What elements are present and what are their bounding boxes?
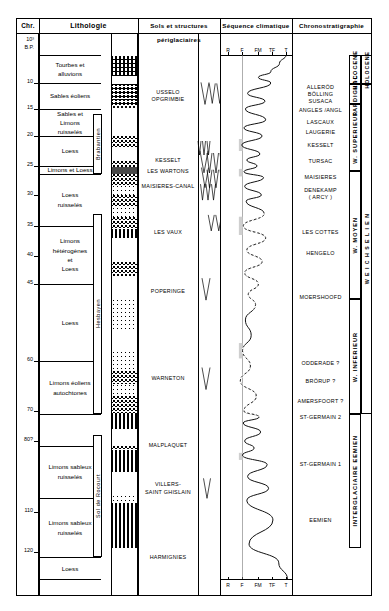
depth-tick-label: 20 <box>27 132 33 138</box>
chrono-event-line: MOERSHOOFD <box>292 294 349 301</box>
chrono-stage-inner-text: W. SUPERIEUR <box>352 111 358 164</box>
climate-curve-uncertain <box>240 55 287 579</box>
ice-wedge-symbol <box>214 153 219 173</box>
depth-tick-label: 30 <box>27 191 33 197</box>
lithology-unit-line: Sables et <box>57 109 83 118</box>
chrono-stage-inner-text: W. MOYEN <box>352 217 358 254</box>
lithology-unit-line: Loess <box>62 146 79 155</box>
chrono-stage-inner: W. INFERIEUR <box>349 299 361 414</box>
chrono-event: LAUGERIE <box>292 129 349 136</box>
chrono-event-line: AMERSFOORT ? <box>292 398 349 405</box>
lithology-unit-line: Limons éoliens <box>49 378 90 387</box>
climate-cold-band <box>239 169 243 177</box>
depth-tick-label: 25 <box>27 162 33 168</box>
chrono-event: HENGELO <box>292 250 349 257</box>
chrono-event: EEMIEN <box>292 517 349 524</box>
lithology-unit-line: Loess <box>62 190 79 199</box>
lithology-unit-line: autochtones <box>53 388 87 397</box>
chrono-event-line: DENEKAMP <box>292 187 349 194</box>
ice-wedge-symbol <box>208 215 214 231</box>
depth-unit-2: B.P. <box>25 45 35 51</box>
climate-cold-band <box>239 453 243 460</box>
soil-complex-label-text: Sol de Rocourt <box>95 474 101 518</box>
depth-tick-label: 40 <box>27 252 33 258</box>
chrono-event: LASCAUX <box>292 119 349 126</box>
ice-wedge-symbol <box>206 184 210 200</box>
chrono-stage-inner: TARDIGLAC. <box>349 84 361 104</box>
lithology-unit: Limons sableuxruisselés <box>39 498 101 558</box>
lithology-unit: Sables etLimonsruisselés <box>39 109 101 136</box>
soil-complex-label-text: Brabantien <box>95 128 101 160</box>
lithology-unit-line: ruisselés <box>58 200 82 209</box>
lithology-pattern-frame <box>111 33 138 595</box>
depth-scale-column: 10³ B.P. 1015202530354045607080?110120 <box>17 19 39 595</box>
chrono-event: ODDERADE ? <box>292 360 349 367</box>
lithology-unit-line: hétérogènes <box>53 246 87 255</box>
ice-wedge-symbol <box>201 184 205 200</box>
depth-tick-label: 80? <box>24 437 33 443</box>
chrono-stage-outer-text: HOLOCENE <box>364 51 370 88</box>
lithology-unit-line: Sables éoliens <box>50 91 90 100</box>
chrono-event: ST-GERMAIN 2 <box>292 414 349 421</box>
chrono-event-line: HENGELO <box>292 250 349 257</box>
chrono-event-line: LASCAUX <box>292 119 349 126</box>
depth-tick-label: 120 <box>24 548 33 554</box>
lithology-unit: Tourbes etalluvions <box>39 55 101 83</box>
ice-wedge-symbol <box>209 83 215 103</box>
chrono-event: ST-GERMAIN 1 <box>292 461 349 468</box>
chrono-event-line: ALLERÖD <box>292 84 349 91</box>
chrono-event: LES COTTES <box>292 229 349 236</box>
chrono-event-line: ST-GERMAIN 1 <box>292 461 349 468</box>
lithology-unit-line: Limons <box>60 236 80 245</box>
figure-frame: Chr. Lithologie Sols et structures périg… <box>16 18 372 596</box>
lithology-unit-line: Limons <box>60 118 80 127</box>
lithology-unit-line: ruisselés <box>58 528 82 537</box>
depth-tick-label: 70 <box>27 407 33 413</box>
soil-complex-label: Hesbayen <box>93 214 102 414</box>
lithology-divider <box>39 579 101 580</box>
chrono-event-line: MAISIERES <box>292 174 349 181</box>
chrono-event-line: EEMIEN <box>292 517 349 524</box>
chronostratigraphy-column: ALLERÖDBÖLLINGSUSACAANGLES /ANGLLASCAUXL… <box>292 19 371 595</box>
lithology-unit: Limons et Loess <box>39 166 101 174</box>
chrono-stage-inner-text: W. INFERIEUR <box>352 332 358 382</box>
lithology-unit: Loess <box>39 284 101 361</box>
ice-wedge-symbols <box>138 19 220 597</box>
chrono-event-line: TURSAC <box>292 158 349 165</box>
chrono-event: AMERSFOORT ? <box>292 398 349 405</box>
depth-tick-label: 45 <box>27 280 33 286</box>
depth-tick-label: 10 <box>27 79 33 85</box>
periglacial-soils-column: USSELOOPGRIMBIEKESSELTLES WARTONSMAISIER… <box>138 19 220 595</box>
chrono-event: ANGLES /ANGL <box>292 107 349 114</box>
chrono-event: BRÖRUP ? <box>292 378 349 385</box>
climate-cold-band <box>239 217 243 235</box>
chrono-event: ALLERÖDBÖLLINGSUSACA <box>292 84 349 105</box>
ice-wedge-symbol <box>201 82 209 104</box>
chrono-event-line: LES COTTES <box>292 229 349 236</box>
lithology-unit: Loess <box>39 557 101 579</box>
climate-curve-uncertain <box>240 55 287 579</box>
lithology-unit: Limons éoliensautochtones <box>39 361 101 414</box>
chrono-stage-inner: W. SUPERIEUR <box>349 104 361 171</box>
depth-unit-1: 10³ <box>26 37 34 43</box>
chrono-event-line: SUSACA <box>292 98 349 105</box>
depth-tick-label: 110 <box>24 508 33 514</box>
chrono-event: MAISIERES <box>292 174 349 181</box>
lithology-unit-line: Tourbes et <box>56 60 85 69</box>
chrono-event-line: LAUGERIE <box>292 129 349 136</box>
climate-curve <box>220 19 292 597</box>
ice-wedge-symbol <box>204 478 211 498</box>
lithology-unit-line: Loess <box>62 564 79 573</box>
chrono-event: MOERSHOOFD <box>292 294 349 301</box>
lithology-unit-line: Loess <box>62 318 79 327</box>
figure-page: Chr. Lithologie Sols et structures périg… <box>0 0 389 611</box>
chrono-stage-inner-text: INTERGLACIAIRE EEMIEN <box>352 435 358 527</box>
lithology-unit-line: Limons sableux <box>49 462 92 471</box>
chrono-stage-outer-text: W E I C H S E L I E N <box>364 213 370 284</box>
lithology-unit: Loess <box>39 136 101 166</box>
chrono-event-line: ODDERADE ? <box>292 360 349 367</box>
lithology-unit: Limons sableuxruisselés <box>39 446 101 498</box>
ice-wedge-symbol <box>212 184 216 200</box>
chrono-stage-inner: INTERGLACIAIRE EEMIEN <box>349 414 361 548</box>
lithology-unit: Sables éoliens <box>39 83 101 109</box>
